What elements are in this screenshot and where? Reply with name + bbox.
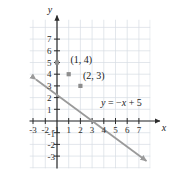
x-tick-label-6: 6	[125, 125, 130, 135]
y-axis-name-label: y	[47, 4, 53, 15]
equation-constant: 5	[137, 97, 142, 108]
x-tick-label-3: 3	[90, 125, 95, 135]
x-tick-label-4: 4	[102, 125, 107, 135]
equation-annotation: y = −x + 5	[100, 97, 142, 108]
point-marker-2-3	[78, 84, 82, 88]
point-annotation-2-3: (2, 3)	[83, 70, 105, 82]
x-tick-label-7: 7	[137, 125, 142, 135]
x-tick-label-2: 2	[78, 125, 83, 135]
point-annotation-1-4: (1, 4)	[71, 54, 93, 66]
x-tick-label-5: 5	[113, 125, 118, 135]
y-tick-label-7: 7	[47, 34, 52, 44]
y-tick-label-1: 1	[47, 105, 52, 115]
y-tick-label--2: -2	[48, 140, 56, 150]
x-tick-label--3: -3	[29, 125, 37, 135]
y-tick-label--3: -3	[48, 152, 56, 162]
point-marker-1-4	[67, 72, 71, 76]
y-tick-label-5: 5	[47, 58, 52, 68]
coordinate-plane-svg: -3 -2 -1 1 2 3 4 5 6 7 7 6 5 4 3 2 1 -1 …	[0, 0, 173, 176]
point-marker-0-5	[55, 60, 59, 64]
graph-figure: -3 -2 -1 1 2 3 4 5 6 7 7 6 5 4 3 2 1 -1 …	[0, 0, 173, 176]
x-tick-label-1: 1	[66, 125, 71, 135]
y-tick-label-4: 4	[47, 69, 52, 79]
y-tick-label-3: 3	[47, 81, 52, 91]
y-tick-label-2: 2	[47, 93, 52, 103]
y-tick-label-6: 6	[47, 46, 52, 56]
y-tick-label--1: -1	[48, 129, 56, 139]
x-axis-name-label: x	[161, 122, 167, 133]
